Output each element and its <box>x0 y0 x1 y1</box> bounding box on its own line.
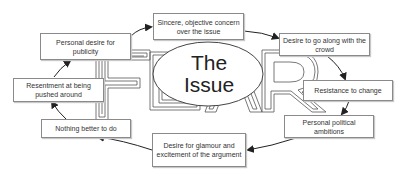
node-nothing-better: Nothing better to do <box>41 119 131 138</box>
node-go-along-with-crowd: Desire to go along with the crowd <box>279 33 370 56</box>
node-resentment: Resentment at being pushed around <box>13 78 104 102</box>
node-political-ambitions: Personal political ambitions <box>284 115 374 138</box>
arrow-political-to-glamour <box>248 138 296 150</box>
node-label: Nothing better to do <box>55 124 117 133</box>
node-label: Personal political ambitions <box>288 118 370 136</box>
node-publicity-desire: Personal desire for publicity <box>40 33 131 60</box>
node-label: Sincere, objective concern over the issu… <box>157 18 240 36</box>
center-issue-label: The Issue <box>154 41 264 107</box>
node-label: Resentment at being pushed around <box>17 81 100 99</box>
issue-title-line2: Issue <box>184 74 234 96</box>
arrow-sincere-to-crowd <box>244 31 278 38</box>
arrow-publicity-to-sincere <box>131 27 151 36</box>
arrow-nothing-to-resentment <box>52 102 66 119</box>
issue-title-line1: The <box>191 52 227 74</box>
arrow-resentment-to-publicity <box>54 61 70 77</box>
arrow-resistance-to-political <box>342 101 349 114</box>
node-resistance-to-change: Resistance to change <box>303 80 393 101</box>
node-sincere-concern: Sincere, objective concern over the issu… <box>153 13 244 40</box>
letter-f <box>96 50 150 120</box>
node-label: Desire for glamour and excitement of the… <box>156 141 242 159</box>
fear-cycle-diagram: The Issue Sincere, objective concern ove… <box>0 0 409 177</box>
node-label: Desire to go along with the crowd <box>283 36 366 54</box>
node-label: Personal desire for publicity <box>44 38 127 56</box>
node-glamour-excitement: Desire for glamour and excitement of the… <box>152 133 246 167</box>
node-label: Resistance to change <box>314 86 381 95</box>
arrow-crowd-to-resistance <box>327 56 345 79</box>
arrow-glamour-to-nothing <box>98 137 152 150</box>
